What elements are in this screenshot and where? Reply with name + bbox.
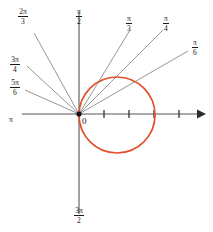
ray-five-pi-over-6 — [25, 90, 79, 114]
polar-curve — [79, 77, 155, 153]
plot-canvas — [0, 0, 213, 232]
ray-two-pi-over-3 — [34, 33, 79, 114]
angle-label-two-pi-over-3: 2π 3 — [12, 8, 34, 27]
ray-pi-over-3 — [79, 30, 130, 114]
fraction-pi-over-3: π 3 — [126, 15, 132, 32]
ray-three-pi-over-4 — [27, 66, 79, 114]
radial-ray-group — [25, 30, 188, 114]
angle-label-pi: π — [3, 109, 19, 125]
angle-label-pi-over-3: π 3 — [119, 15, 139, 34]
fraction-pi-over-4: π 4 — [163, 15, 169, 32]
ray-pi-over-4 — [79, 30, 163, 114]
fraction-five-pi-over-6: 5π 6 — [10, 79, 20, 96]
angle-label-pi-over-2: π 2 — [69, 8, 89, 27]
origin-point-marker — [76, 111, 81, 116]
x-axis-arrow-icon — [197, 110, 206, 119]
angle-label-pi-over-4: π 4 — [156, 15, 176, 34]
fraction-three-pi-over-2: 3π 2 — [74, 207, 84, 224]
polar-plot-figure: 0 π 2 2π 3 3π 4 5π 6 π 3π 2 — [0, 0, 213, 232]
fraction-pi-over-2: π 2 — [76, 8, 82, 25]
fraction-pi-over-6: π 6 — [192, 39, 198, 56]
fraction-three-pi-over-4: 3π 4 — [10, 56, 20, 73]
angle-label-pi-over-6: π 6 — [185, 39, 205, 58]
fraction-two-pi-over-3: 2π 3 — [18, 8, 28, 25]
ray-pi-over-6 — [79, 51, 188, 114]
angle-label-three-pi-over-4: 3π 4 — [4, 56, 26, 75]
origin-label: 0 — [82, 117, 87, 126]
angle-label-three-pi-over-2: 3π 2 — [68, 207, 90, 226]
angle-label-five-pi-over-6: 5π 6 — [4, 79, 26, 98]
